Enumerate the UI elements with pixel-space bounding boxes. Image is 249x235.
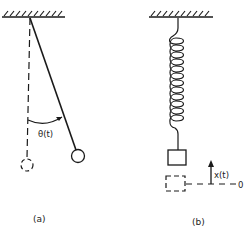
- figure-canvas: θ(t) (a) x(t) 0 (b): [0, 0, 249, 235]
- angle-label: θ(t): [38, 129, 53, 139]
- arrow-up-icon: [208, 160, 214, 167]
- equilibrium-dashed-line: [27, 18, 30, 158]
- caption-b: (b): [192, 217, 205, 227]
- panel-b-spring-mass: x(t) 0 (b): [149, 11, 243, 227]
- mass-block: [168, 150, 186, 165]
- displacement-label: x(t): [214, 170, 229, 180]
- equilibrium-mass-dashed: [166, 176, 185, 191]
- panel-a-pendulum: θ(t) (a): [2, 11, 85, 224]
- spring-coil: [170, 18, 184, 150]
- ceiling-b: [149, 11, 213, 17]
- equilibrium-bob-dashed: [21, 159, 33, 171]
- ceiling-a: [2, 11, 65, 17]
- caption-a: (a): [33, 214, 46, 224]
- reference-zero-label: 0: [238, 180, 243, 190]
- pendulum-bob: [72, 150, 85, 163]
